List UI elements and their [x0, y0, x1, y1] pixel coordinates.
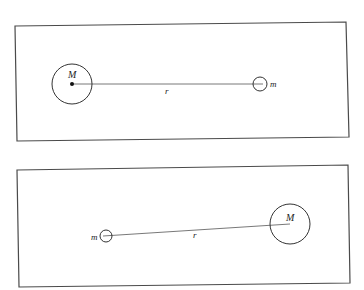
label-separation-r: r: [165, 86, 169, 96]
panel-top-frame: [15, 22, 349, 141]
label-large-mass: M: [285, 212, 295, 223]
large-mass-center-dot: [70, 82, 74, 86]
gravitation-diagram: M m r M m r: [0, 0, 364, 290]
label-small-mass: m: [91, 232, 98, 242]
label-separation-r: r: [193, 230, 197, 240]
panel-bottom: M m r: [17, 165, 350, 287]
label-large-mass: M: [67, 69, 77, 80]
panel-bottom-frame: [17, 165, 350, 287]
panel-top: M m r: [15, 22, 349, 141]
label-small-mass: m: [270, 79, 277, 89]
